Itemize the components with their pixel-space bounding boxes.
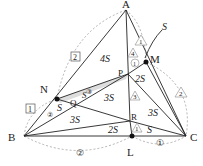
area-2S-upper: 2S: [135, 73, 145, 84]
area-3S-left: 3S: [69, 114, 80, 125]
line-AR: [126, 10, 130, 121]
svg-text:②: ②: [47, 111, 53, 119]
label-A: A: [122, 0, 130, 10]
diagram-svg: A B C M N P Q R L S 4S 2S 3S 3S 3S 2S S …: [0, 0, 203, 166]
area-S-left: S: [57, 102, 62, 113]
svg-text:2: 2: [179, 90, 183, 98]
circle-1: ①: [156, 138, 164, 148]
box-1: 1: [28, 105, 32, 114]
area-2S-lower: 2S: [108, 124, 118, 135]
triangle-marks: 1 2 4 1 3 1 ② ③: [47, 35, 187, 133]
label-N: N: [40, 83, 48, 95]
label-M: M: [150, 53, 160, 65]
svg-text:1: 1: [139, 38, 143, 46]
circled-marks: ② ①: [76, 138, 164, 158]
dot-N: [55, 97, 60, 102]
label-R: R: [131, 112, 137, 122]
svg-text:1: 1: [133, 61, 136, 67]
label-B: B: [8, 131, 15, 143]
shaded-strip: [57, 74, 128, 103]
label-S-leader: S: [162, 21, 167, 32]
circle-2: ②: [76, 148, 84, 158]
dot-L: [130, 134, 135, 139]
svg-text:③: ③: [86, 88, 92, 96]
area-3S-right: 3S: [147, 107, 158, 118]
svg-text:3: 3: [133, 93, 137, 101]
svg-text:1: 1: [135, 125, 139, 133]
dot-M: [144, 60, 149, 65]
label-C: C: [190, 131, 197, 143]
box-2: 2: [73, 53, 77, 62]
area-3S-center: 3S: [103, 92, 114, 103]
area-S-lower: S: [147, 124, 152, 135]
geometry-diagram: A B C M N P Q R L S 4S 2S 3S 3S 3S 2S S …: [0, 0, 203, 166]
label-L: L: [127, 146, 134, 158]
label-Q: Q: [70, 98, 77, 108]
label-P: P: [118, 68, 123, 78]
area-4S: 4S: [100, 53, 110, 64]
svg-text:4: 4: [131, 50, 135, 58]
